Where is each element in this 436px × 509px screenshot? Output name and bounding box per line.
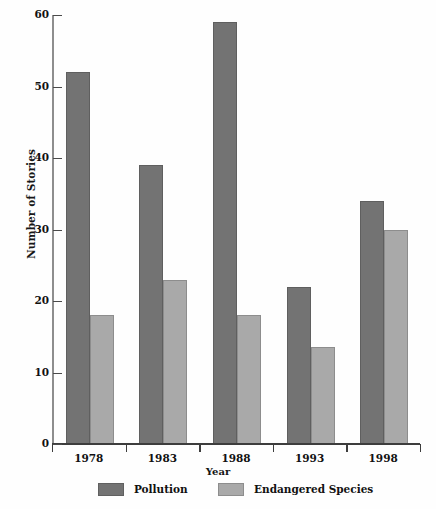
x-axis-tick-mark [420, 444, 421, 452]
y-axis-tick-label: 50 [9, 80, 49, 92]
bar-chart: Number of Stories 0102030405060 19781983… [0, 0, 436, 509]
x-axis-title: Year [0, 466, 436, 477]
bar-1998-pollution [360, 201, 384, 444]
x-axis-line [52, 443, 420, 445]
legend-item-endangered-species: Endangered Species [218, 481, 373, 497]
y-axis-tick-label: 30 [9, 223, 49, 235]
plot-area [52, 15, 420, 444]
x-axis-tick-label: 1983 [127, 452, 197, 464]
bar-1998-endangered-species [384, 230, 408, 445]
y-axis-tick-mark [53, 87, 62, 88]
bar-1983-endangered-species [163, 280, 187, 444]
x-axis-tick-label: 1978 [54, 452, 124, 464]
y-axis-tick-label: 40 [9, 151, 49, 163]
x-axis-tick-mark [346, 444, 347, 452]
x-axis-tick-mark [273, 444, 274, 452]
bar-1978-pollution [66, 72, 90, 444]
x-axis-tick-label: 1993 [275, 452, 345, 464]
bar-1993-pollution [287, 287, 311, 444]
y-axis-tick-mark [53, 373, 62, 374]
y-axis-tick-label: 60 [9, 8, 49, 20]
bar-1983-pollution [139, 165, 163, 444]
y-axis-tick-mark [53, 444, 62, 445]
y-axis-tick-label: 20 [9, 294, 49, 306]
y-axis-tick-mark [53, 15, 62, 16]
chart-legend: Pollution Endangered Species [0, 481, 436, 501]
legend-swatch-icon [98, 483, 124, 496]
y-axis-tick-mark [53, 230, 62, 231]
y-axis-title: Number of Stories [25, 124, 37, 284]
bar-1978-endangered-species [90, 315, 114, 444]
y-axis-tick-mark [53, 158, 62, 159]
y-axis-tick-label: 0 [9, 437, 49, 449]
legend-item-pollution: Pollution [98, 481, 188, 497]
x-axis-tick-mark [199, 444, 200, 452]
legend-label: Pollution [134, 483, 188, 495]
legend-swatch-icon [218, 483, 244, 496]
bar-1988-endangered-species [237, 315, 261, 444]
x-axis-tick-label: 1988 [201, 452, 271, 464]
bar-1993-endangered-species [311, 347, 335, 444]
y-axis-tick-label: 10 [9, 366, 49, 378]
bar-1988-pollution [213, 22, 237, 444]
x-axis-tick-mark [126, 444, 127, 452]
y-axis-tick-mark [53, 301, 62, 302]
legend-label: Endangered Species [254, 483, 373, 495]
x-axis-tick-label: 1998 [348, 452, 418, 464]
